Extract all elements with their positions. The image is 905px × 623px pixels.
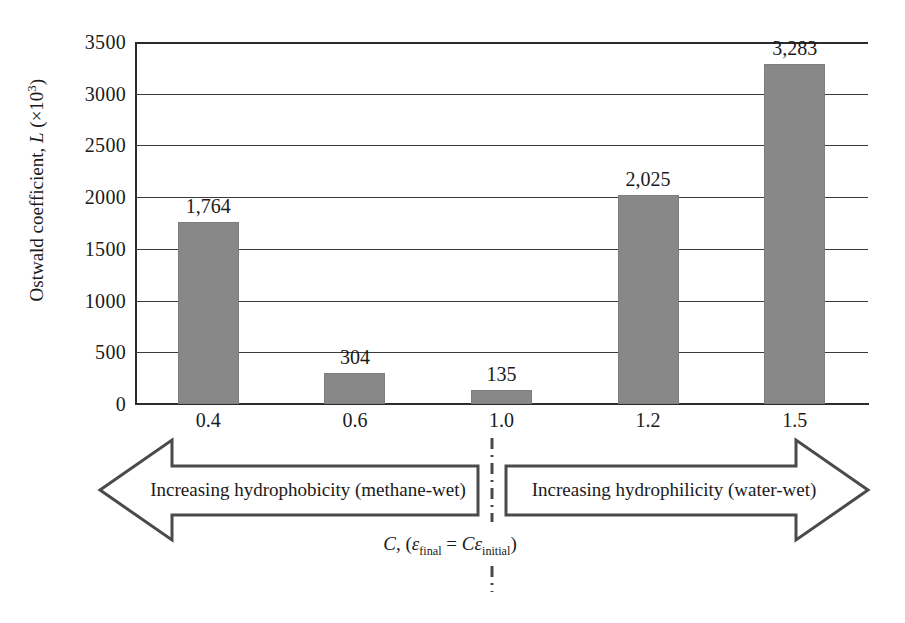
y-tick-label: 500 <box>6 342 126 362</box>
gridline <box>135 249 868 250</box>
y-tick-label: 1000 <box>6 291 126 311</box>
bar-value-label: 2,025 <box>588 169 708 189</box>
x-tick-label: 1.0 <box>452 409 552 431</box>
gridline <box>135 352 868 353</box>
gridline <box>135 94 868 95</box>
bar-value-label: 304 <box>295 347 415 367</box>
gridline <box>135 145 868 146</box>
caption-equals: = <box>442 533 462 554</box>
y-tick-label: 2500 <box>6 135 126 155</box>
y-tick-label: 2000 <box>6 187 126 207</box>
right-arrow-label: Increasing hydrophilicity (water-wet) <box>508 480 840 500</box>
bar-value-label: 3,283 <box>735 38 855 58</box>
left-arrow-label: Increasing hydrophobicity (methane-wet) <box>128 480 488 500</box>
gridline <box>135 301 868 302</box>
caption-epsilon-initial: ε <box>475 533 483 554</box>
x-tick-label: 0.6 <box>305 409 405 431</box>
caption-variable: C <box>383 533 396 554</box>
caption-sub-initial: initial <box>482 544 510 558</box>
x-tick-label: 1.5 <box>745 409 845 431</box>
x-axis-caption: C, (εfinal = Cεinitial) <box>300 533 600 559</box>
y-tick-label: 3500 <box>6 32 126 52</box>
caption-coefficient: C <box>462 533 475 554</box>
bar-value-label: 135 <box>442 364 562 384</box>
y-tick-label: 1500 <box>6 239 126 259</box>
plot-area <box>135 42 868 404</box>
y-tick-label: 0 <box>6 394 126 414</box>
bar <box>471 390 532 404</box>
bar <box>618 195 679 404</box>
y-tick-label: 3000 <box>6 84 126 104</box>
x-tick-label: 1.2 <box>598 409 698 431</box>
caption-sub-final: final <box>419 544 441 558</box>
bar-value-label: 1,764 <box>148 196 268 216</box>
bar <box>764 64 825 404</box>
y-axis-tick-labels: 0500100015002000250030003500 <box>0 42 126 404</box>
bar <box>324 373 385 404</box>
caption-close: ) <box>510 533 516 554</box>
caption-open: , ( <box>396 533 412 554</box>
x-tick-label: 0.4 <box>158 409 258 431</box>
bar <box>178 222 239 404</box>
bar-chart-figure: Ostwald coefficient, L (×103) 0500100015… <box>0 0 905 623</box>
